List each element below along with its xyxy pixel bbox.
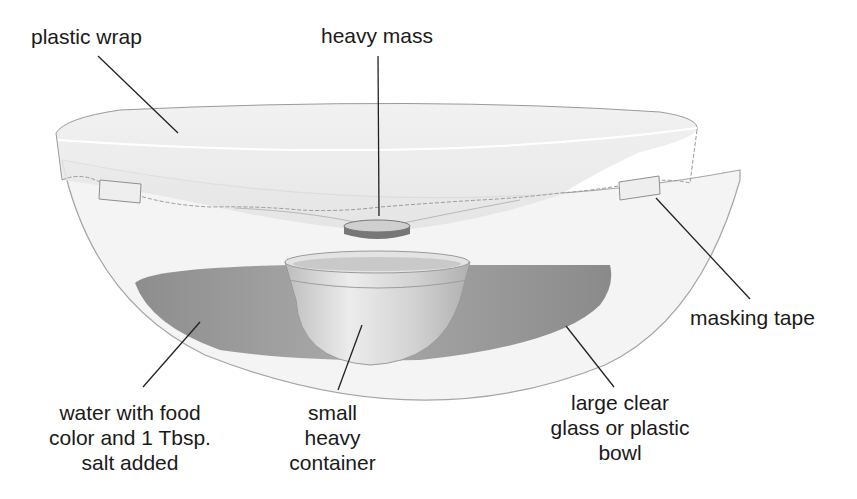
label-masking-tape: masking tape (690, 305, 815, 330)
heavy-mass (344, 220, 410, 239)
label-small-container-line-2: heavy (270, 425, 395, 450)
label-water-line-1: water with food (30, 400, 230, 425)
label-heavy-mass: heavy mass (321, 23, 433, 48)
label-large-bowl-line-3: bowl (535, 440, 705, 465)
label-plastic-wrap: plastic wrap (31, 24, 142, 49)
label-water-line-3: salt added (30, 450, 230, 475)
label-large-bowl-line-1: large clear (535, 390, 705, 415)
label-water-line-2: color and 1 Tbsp. (30, 425, 230, 450)
label-small-container: small heavy container (270, 400, 395, 475)
label-large-bowl-line-2: glass or plastic (535, 415, 705, 440)
label-small-container-line-3: container (270, 450, 395, 475)
label-water: water with food color and 1 Tbsp. salt a… (30, 400, 230, 475)
label-large-bowl: large clear glass or plastic bowl (535, 390, 705, 465)
masking-tape-left (99, 180, 141, 203)
label-small-container-line-1: small (270, 400, 395, 425)
